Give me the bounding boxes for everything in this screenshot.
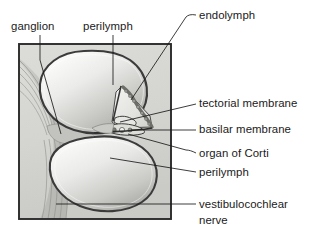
- label-vestibulocochlear-nerve-line1: vestibulocochlear: [199, 198, 288, 210]
- diagram-canvas: ganglion perilymph endolymph tectorial m…: [0, 0, 329, 239]
- right-labels-group: endolymph tectorial membrane basilar mem…: [199, 9, 297, 226]
- label-perilymph-right: perilymph: [199, 166, 249, 178]
- label-ganglion: ganglion: [11, 20, 54, 32]
- top-labels-group: ganglion perilymph: [11, 20, 133, 32]
- cochlea-diagram-figure: ganglion perilymph endolymph tectorial m…: [0, 0, 329, 239]
- label-endolymph: endolymph: [199, 9, 255, 21]
- label-tectorial-membrane: tectorial membrane: [199, 97, 297, 109]
- label-vestibulocochlear-nerve-line2: nerve: [199, 214, 228, 226]
- label-perilymph-top: perilymph: [83, 20, 133, 32]
- label-basilar-membrane: basilar membrane: [199, 123, 291, 135]
- label-organ-of-corti: organ of Corti: [199, 147, 269, 159]
